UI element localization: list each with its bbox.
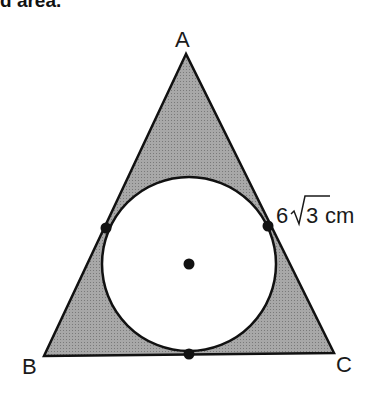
tangent-point-ac — [263, 221, 274, 232]
geometry-diagram: A B C 6 3 cm — [0, 0, 386, 399]
vertex-label-b: B — [22, 354, 37, 379]
tangent-point-ab — [101, 223, 112, 234]
vertex-label-c: C — [336, 352, 352, 377]
circle-center-point — [184, 259, 195, 270]
vertex-label-a: A — [175, 27, 190, 52]
svg-text:6: 6 — [276, 203, 288, 228]
svg-text:3: 3 — [306, 203, 318, 228]
tangent-point-bc — [184, 349, 195, 360]
side-length-label: 6 3 cm — [276, 196, 354, 228]
svg-text:cm: cm — [325, 203, 354, 228]
